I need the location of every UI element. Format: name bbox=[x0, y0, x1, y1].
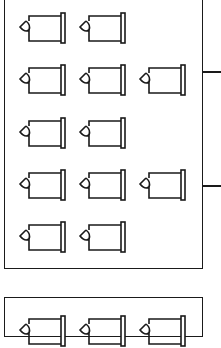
trash-bin-icon bbox=[75, 220, 127, 254]
trash-bin-icon bbox=[135, 168, 187, 202]
trash-bin-icon bbox=[15, 314, 67, 348]
trash-bin-icon bbox=[15, 63, 67, 97]
connector-line-1 bbox=[202, 71, 221, 73]
connector-line-2 bbox=[202, 185, 221, 187]
trash-bin-icon bbox=[15, 11, 67, 45]
trash-bin-icon bbox=[135, 63, 187, 97]
trash-bin-icon bbox=[75, 11, 127, 45]
trash-bin-icon bbox=[75, 314, 127, 348]
trash-bin-icon bbox=[75, 168, 127, 202]
trash-bin-icon bbox=[75, 63, 127, 97]
trash-bin-icon bbox=[135, 314, 187, 348]
trash-bin-icon bbox=[75, 116, 127, 150]
trash-bin-icon bbox=[15, 116, 67, 150]
trash-bin-icon bbox=[15, 220, 67, 254]
trash-bin-icon bbox=[15, 168, 67, 202]
